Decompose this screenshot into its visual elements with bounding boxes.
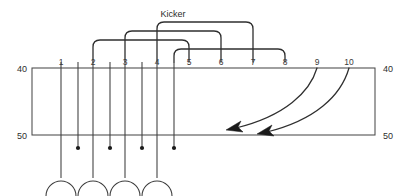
position-label-9: 9: [315, 57, 320, 67]
loop-4-to-7: [157, 22, 253, 62]
bottom-arcs: [46, 181, 172, 196]
terminal-dot-5: [172, 146, 176, 150]
bottom-arc-3: [110, 181, 140, 196]
bottom-arc-4: [142, 181, 172, 196]
scale-label-top-right: 40: [383, 64, 393, 74]
loop-connectors: [93, 22, 285, 62]
position-label-6: 6: [219, 57, 224, 67]
terminal-dot-2: [76, 146, 80, 150]
scale-label-bottom-left: 50: [17, 131, 27, 141]
position-label-10: 10: [344, 57, 354, 67]
position-label-7: 7: [251, 57, 256, 67]
position-label-5: 5: [187, 57, 192, 67]
flow-arrow-10-curve: [267, 68, 349, 132]
loop-3-to-6: [125, 31, 221, 62]
drop-lines: [76, 62, 176, 150]
kicker-diagram: Kicker 1 2 3 4 5 6 7 8 9 10 40 50 40 50: [0, 0, 406, 196]
terminal-dot-3: [108, 146, 112, 150]
scale-label-top-left: 40: [17, 64, 27, 74]
bottom-arc-2: [78, 181, 108, 196]
through-lines: [61, 62, 157, 178]
position-label-8: 8: [283, 57, 288, 67]
scale-label-bottom-right: 50: [383, 131, 393, 141]
flow-arrows: [226, 68, 349, 136]
flow-arrow-9-curve: [236, 68, 317, 128]
terminal-dot-4: [140, 146, 144, 150]
diagram-title: Kicker: [160, 9, 185, 19]
bottom-arc-1: [46, 181, 76, 196]
position-labels: 1 2 3 4 5 6 7 8 9 10: [59, 57, 354, 67]
depth-band-box: [32, 68, 375, 135]
